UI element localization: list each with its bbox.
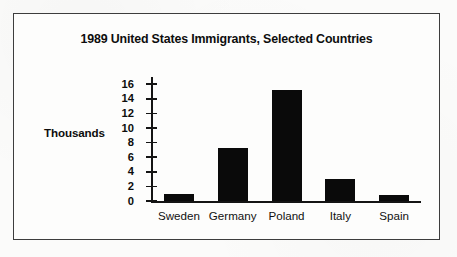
chart-page: 1989 United States Immigrants, Selected … [0,0,457,257]
category-label-italy: Italy [330,209,351,222]
y-tick-label: 12 [94,106,134,121]
y-tick-label: 4 [94,164,134,179]
bar-germany [218,148,248,201]
y-tick-label: 10 [94,121,134,136]
plot-area: 1614121086420 SwedenGermanyPolandItalySp… [138,77,426,209]
bar-spain [379,195,409,201]
y-tick-label: 0 [94,194,134,209]
category-label-sweden: Sweden [158,209,200,222]
chart-frame: 1989 United States Immigrants, Selected … [13,13,440,240]
y-tick-label: 8 [94,135,134,150]
bar-italy [325,179,355,201]
category-label-germany: Germany [209,209,257,222]
y-tick-label: 16 [94,77,134,92]
bar-sweden [164,194,194,201]
chart-title: 1989 United States Immigrants, Selected … [14,32,439,46]
y-tick-label: 14 [94,91,134,106]
category-label-poland: Poland [268,209,304,222]
y-tick-label: 6 [94,150,134,165]
category-label-spain: Spain [379,209,409,222]
bars-layer [152,77,421,201]
bar-poland [272,90,302,201]
x-axis-line [151,201,421,203]
y-tick-label: 2 [94,179,134,194]
